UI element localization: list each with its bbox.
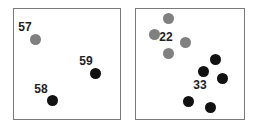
point-black xyxy=(183,96,194,107)
cluster-label: 22 xyxy=(159,31,172,43)
point-gray xyxy=(149,29,160,40)
point-gray xyxy=(180,37,191,48)
point-gray xyxy=(163,13,174,24)
point-black xyxy=(198,66,209,77)
cluster-label: 57 xyxy=(18,21,31,33)
point-black xyxy=(47,95,58,106)
cluster-label: 58 xyxy=(34,83,47,95)
cluster-label: 59 xyxy=(79,55,92,67)
point-gray xyxy=(163,48,174,59)
cluster-label: 33 xyxy=(193,79,206,91)
point-black xyxy=(205,102,216,113)
point-black xyxy=(210,54,221,65)
point-black xyxy=(217,73,228,84)
point-gray xyxy=(30,34,41,45)
point-black xyxy=(90,68,101,79)
